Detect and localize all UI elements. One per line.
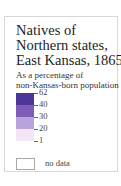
break-label-20: 20 xyxy=(39,124,48,133)
legend-subtitle: As a percentage of non-Kansas-born popul… xyxy=(16,70,119,90)
swatch-30-40 xyxy=(16,105,34,117)
swatch-40-62 xyxy=(16,93,34,105)
swatch-1-20 xyxy=(16,129,34,141)
break-label-30: 30 xyxy=(39,112,48,121)
tick-mark xyxy=(34,93,38,94)
subtitle-line-1: As a percentage of xyxy=(16,70,119,80)
title-line-3: East Kansas, 1865 xyxy=(16,53,121,68)
title-line-1: Natives of xyxy=(16,23,121,38)
no-data-swatch xyxy=(16,158,35,170)
subtitle-line-2: non-Kansas-born population xyxy=(16,80,119,90)
legend-title: Natives of Northern states, East Kansas,… xyxy=(16,23,121,68)
tick-mark xyxy=(34,105,38,106)
swatch-20-30 xyxy=(16,117,34,129)
title-line-2: Northern states, xyxy=(16,38,121,53)
break-label-62: 62 xyxy=(39,88,48,97)
no-data-label: no data xyxy=(45,159,70,168)
break-label-1: 1 xyxy=(39,136,43,145)
tick-mark xyxy=(34,129,38,130)
tick-mark xyxy=(34,141,38,142)
tick-mark xyxy=(34,117,38,118)
break-label-40: 40 xyxy=(39,100,48,109)
map-legend: Natives of Northern states, East Kansas,… xyxy=(4,16,118,172)
